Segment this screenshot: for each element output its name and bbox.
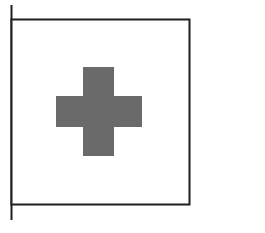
flag-diagram — [0, 0, 265, 233]
